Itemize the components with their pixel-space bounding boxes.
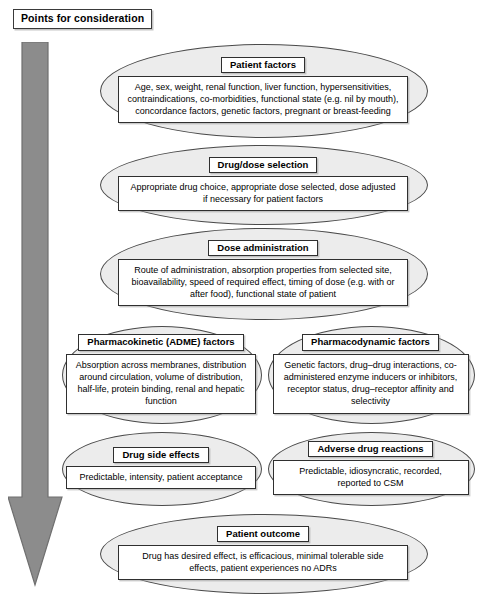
node-header-pharmacodynamic-factors: Pharmacodynamic factors: [302, 334, 439, 351]
figure-caption: [8, 596, 478, 605]
node-body-pharmacokinetic-adme-factors: Absorption across membranes, distributio…: [66, 354, 256, 414]
node-body-drug-dose-selection: Appropriate drug choice, appropriate dos…: [118, 176, 408, 211]
node-body-drug-side-effects: Predictable, intensity, patient acceptan…: [66, 466, 256, 489]
node-header-patient-outcome: Patient outcome: [217, 526, 309, 543]
node-body-pharmacodynamic-factors: Genetic factors, drug–drug interactions,…: [273, 354, 469, 414]
node-header-drug-side-effects: Drug side effects: [113, 447, 208, 464]
node-header-dose-administration: Dose administration: [208, 240, 317, 257]
node-body-adverse-drug-reactions: Predictable, idiosyncratic, recorded, re…: [273, 460, 469, 495]
node-pharmacodynamic-factors[interactable]: Pharmacodynamic factors Genetic factors,…: [268, 326, 473, 422]
page-title: Points for consideration: [13, 9, 152, 29]
node-body-patient-outcome: Drug has desired effect, is efficacious,…: [118, 545, 408, 580]
node-pharmacokinetic-adme-factors[interactable]: Pharmacokinetic (ADME) factors Absorptio…: [62, 326, 260, 422]
node-header-drug-dose-selection: Drug/dose selection: [209, 157, 318, 174]
node-body-dose-administration: Route of administration, absorption prop…: [118, 259, 408, 306]
node-patient-factors[interactable]: Patient factors Age, sex, weight, renal …: [100, 44, 426, 136]
downward-flow-arrow: [8, 42, 70, 590]
node-header-adverse-drug-reactions: Adverse drug reactions: [308, 441, 432, 458]
node-header-pharmacokinetic-adme-factors: Pharmacokinetic (ADME) factors: [78, 334, 243, 351]
node-body-patient-factors: Age, sex, weight, renal function, liver …: [118, 76, 408, 123]
node-patient-outcome[interactable]: Patient outcome Drug has desired effect,…: [100, 514, 426, 592]
node-drug-side-effects[interactable]: Drug side effects Predictable, intensity…: [62, 432, 260, 504]
node-drug-dose-selection[interactable]: Drug/dose selection Appropriate drug cho…: [100, 145, 426, 223]
node-adverse-drug-reactions[interactable]: Adverse drug reactions Predictable, idio…: [268, 432, 473, 504]
node-header-patient-factors: Patient factors: [221, 57, 305, 74]
node-dose-administration[interactable]: Dose administration Route of administrat…: [100, 228, 426, 318]
